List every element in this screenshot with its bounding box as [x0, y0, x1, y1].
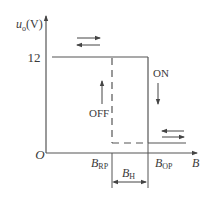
x-axis-label: B: [192, 156, 200, 170]
y-axis-label: uo(V): [16, 17, 43, 33]
b-h-label: BH: [122, 166, 135, 181]
origin-label: O: [35, 147, 45, 162]
hysteresis-diagram: uo(V) 12 O ON OFF BRP BOP B BH: [0, 0, 212, 203]
level-12-label: 12: [28, 50, 41, 65]
off-label: OFF: [89, 107, 109, 119]
b-rp-label: BRP: [91, 156, 109, 171]
b-op-label: BOP: [155, 156, 173, 171]
arrow-left-head-icon: [112, 180, 118, 184]
on-label: ON: [153, 67, 169, 79]
